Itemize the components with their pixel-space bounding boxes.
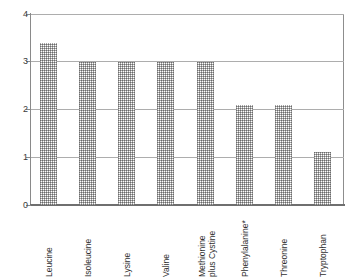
x-axis-label-isoleucine: Isoleucine <box>84 207 94 277</box>
x-axis-label-lysine: Lysine <box>123 207 133 277</box>
bar-chart: 4 3 2 1 0 LeucineIsoleucineLysineValineM… <box>0 0 353 279</box>
bar-isoleucine <box>79 62 96 205</box>
x-axis-label-valine: Valine <box>162 207 172 277</box>
x-axis-label-threonine: Threonine <box>280 207 290 277</box>
x-axis-labels: LeucineIsoleucineLysineValineMethioninep… <box>31 207 344 279</box>
bar-threonine <box>275 105 292 205</box>
bar-phenylalanine <box>236 105 253 205</box>
bar-valine <box>157 62 174 205</box>
x-axis-label-methionine-plus-cystine: Methionineplus Cystine <box>198 207 217 277</box>
bar-leucine <box>40 43 57 205</box>
x-axis-label-tryptophan: Tryptophan <box>319 207 329 277</box>
bar-methionine-plus-cystine <box>197 62 214 205</box>
y-tick-label-2: 2 <box>14 105 28 114</box>
y-tick-label-4: 4 <box>14 10 28 19</box>
bar-lysine <box>118 62 135 205</box>
y-tick-label-3: 3 <box>14 57 28 66</box>
y-tick-label-1: 1 <box>14 153 28 162</box>
x-axis-label-phenylalanine: Phenylalanine* <box>241 207 251 277</box>
y-tick-label-0: 0 <box>14 201 28 210</box>
bar-tryptophan <box>314 152 331 205</box>
x-axis-label-leucine: Leucine <box>45 207 55 277</box>
bars-container <box>31 14 344 205</box>
